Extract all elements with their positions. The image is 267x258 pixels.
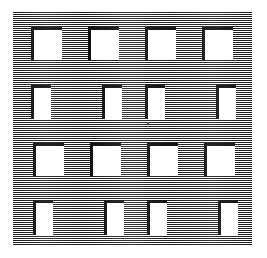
bracket-cell-r4c1 [33, 200, 53, 235]
bracket-cell-r3c3 [147, 143, 178, 176]
bracket-cell-r2c2 [102, 85, 122, 119]
bracket-cell-r2c3 [145, 85, 165, 119]
figure-canvas [0, 0, 267, 258]
bracket-cell-r1c1 [31, 27, 62, 60]
bracket-cell-r4c3 [147, 200, 167, 235]
bracket-cell-r4c4 [218, 200, 238, 235]
bracket-cell-r1c2 [88, 27, 119, 60]
bracket-cell-r2c4 [216, 85, 236, 119]
ink-speck [147, 122, 149, 124]
bracket-cell-r1c3 [145, 27, 176, 60]
bracket-cell-r4c2 [104, 200, 124, 235]
bracket-cell-r1c4 [202, 27, 233, 60]
bracket-cell-r3c4 [204, 143, 235, 176]
bracket-cell-r3c1 [33, 143, 64, 176]
bracket-cell-r3c2 [90, 143, 121, 176]
bracket-cell-r2c1 [31, 85, 51, 119]
